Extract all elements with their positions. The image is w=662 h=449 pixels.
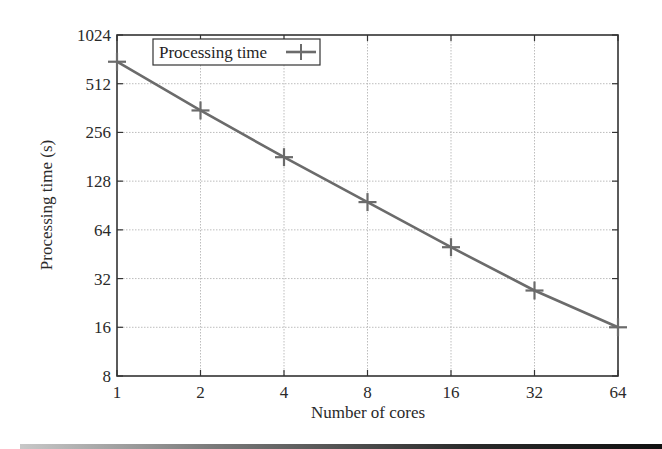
y-axis-tick-labels: 81632641282565121024 [77,26,112,386]
y-tick-label: 256 [86,123,112,142]
x-tick-label: 8 [363,383,372,402]
plus-marker-icon [275,148,293,166]
y-tick-label: 1024 [77,26,112,45]
y-tick-label: 512 [86,75,112,94]
x-axis-title: Number of cores [311,403,425,422]
y-tick-label: 64 [94,221,112,240]
x-tick-label: 64 [610,383,628,402]
processing-time-chart: 81632641282565121024 1248163264 Processi… [0,0,662,449]
x-tick-label: 16 [443,383,460,402]
x-tick-label: 32 [526,383,543,402]
page-bottom-rule [20,444,662,449]
x-tick-label: 1 [113,383,122,402]
x-axis-tick-labels: 1248163264 [113,383,627,402]
y-tick-label: 32 [94,270,111,289]
y-axis-title: Processing time (s) [37,140,56,270]
plus-marker-icon [359,193,377,211]
plus-marker-icon [442,238,460,256]
plus-marker-icon [192,101,210,119]
plus-marker-icon [526,282,544,300]
x-tick-label: 2 [196,383,205,402]
legend-label: Processing time [159,43,267,62]
plus-marker-icon [609,318,627,336]
y-tick-label: 8 [103,367,112,386]
x-tick-label: 4 [280,383,289,402]
plus-marker-icon [108,53,126,71]
y-tick-label: 128 [86,172,112,191]
y-tick-label: 16 [94,318,111,337]
legend: Processing time [153,39,320,65]
